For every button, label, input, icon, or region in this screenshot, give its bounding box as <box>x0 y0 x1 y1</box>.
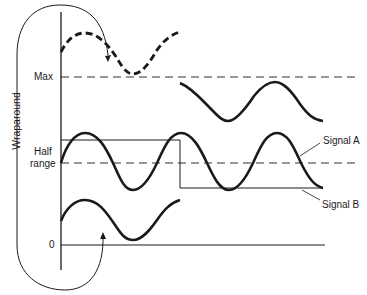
signal-a-leader <box>300 143 320 156</box>
wraparound-diagram <box>0 0 367 295</box>
signal-a-label: Signal A <box>323 135 360 147</box>
signal-b-leader <box>302 190 320 200</box>
wraparound-arrowhead-top <box>105 55 111 62</box>
wrapped-signal-low <box>61 200 180 240</box>
half-range-label-line1: Half <box>34 146 52 158</box>
wrapped-signal-dashed <box>61 32 180 74</box>
wraparound-label: Wraparound <box>10 91 22 151</box>
signal-b-label: Signal B <box>322 199 359 211</box>
max-label: Max <box>34 71 53 83</box>
zero-label: 0 <box>49 239 55 251</box>
signal-a <box>61 133 323 190</box>
signal-b <box>61 140 323 188</box>
overrange-signal <box>180 82 323 121</box>
half-range-label-line2: range <box>30 158 56 170</box>
